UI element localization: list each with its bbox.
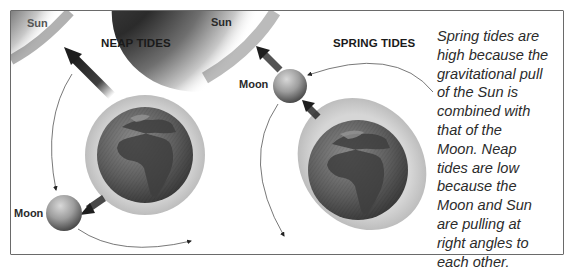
caption-line: high because the <box>437 46 562 65</box>
caption-line: that of the <box>437 121 562 140</box>
caption-line: of the Sun is <box>437 83 562 102</box>
moon-label-spring: Moon <box>239 78 268 90</box>
moon-neap <box>46 195 82 231</box>
caption-line: each other. <box>437 253 562 271</box>
moon-pull-arrow-spring <box>302 100 318 117</box>
neap-orbit-arc-upper <box>52 74 72 190</box>
caption-line: tides are low <box>437 159 562 178</box>
moon-pull-arrow-neap <box>80 198 104 215</box>
caption-line: Spring tides are <box>437 27 562 46</box>
caption-text: Spring tides are high because the gravit… <box>437 27 562 271</box>
caption-line: are pulling at <box>437 215 562 234</box>
spring-orbit-arc-upper <box>308 63 433 92</box>
title-spring-tides: SPRING TIDES <box>333 37 415 49</box>
sun-pull-arrow-neap <box>64 47 112 96</box>
neap-orbit-arc-lower <box>78 229 191 247</box>
sun-label-spring: Sun <box>211 16 232 28</box>
moon-spring <box>273 69 307 103</box>
caption-line: right angles to <box>437 234 562 253</box>
caption-line: combined with <box>437 102 562 121</box>
caption-line: Moon. Neap <box>437 140 562 159</box>
sun-label-neap: Sun <box>27 17 48 29</box>
spring-orbit-arc-lower <box>260 104 284 236</box>
caption-line: gravitational pull <box>437 65 562 84</box>
title-neap-tides: NEAP TIDES <box>101 37 171 49</box>
caption-line: because the <box>437 177 562 196</box>
moon-label-neap: Moon <box>14 207 43 219</box>
caption-line: Moon and Sun <box>437 196 562 215</box>
